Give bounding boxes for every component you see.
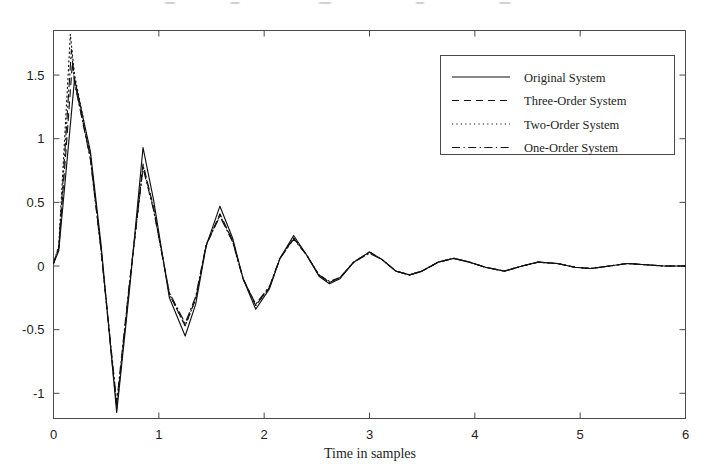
- x-tick-label: 6: [682, 427, 689, 442]
- legend-label: One-Order System: [524, 141, 618, 155]
- y-tick-label: -0.5: [22, 322, 44, 337]
- y-tick-label: -1: [33, 386, 45, 401]
- x-tick-label: 5: [577, 427, 584, 442]
- y-tick-label: 0: [37, 259, 44, 274]
- legend[interactable]: Original SystemThree-Order SystemTwo-Ord…: [441, 56, 675, 156]
- y-tick-label: 1.5: [26, 68, 44, 83]
- x-tick-label: 0: [50, 427, 57, 442]
- legend-label: Two-Order System: [524, 118, 620, 132]
- legend-label: Original System: [524, 71, 606, 85]
- x-tick-label: 2: [261, 427, 268, 442]
- figure-canvas: -1-0.500.511.5 0123456 Time in samples O…: [0, 0, 711, 471]
- y-tick-label: 0.5: [26, 195, 44, 210]
- legend-label: Three-Order System: [524, 94, 627, 108]
- x-axis-title: Time in samples: [324, 446, 416, 461]
- x-tick-label: 4: [471, 427, 478, 442]
- x-tick-label: 3: [366, 427, 373, 442]
- x-tick-label: 1: [155, 427, 162, 442]
- line-chart: -1-0.500.511.5 0123456 Time in samples O…: [0, 0, 711, 471]
- y-tick-label: 1: [37, 131, 44, 146]
